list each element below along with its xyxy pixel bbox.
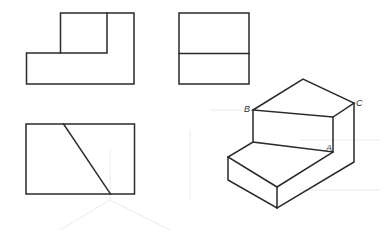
label-b: B xyxy=(244,104,250,114)
background-ghost-lines xyxy=(60,110,380,230)
label-c: C xyxy=(356,98,363,108)
front-view xyxy=(27,13,135,84)
side-view xyxy=(179,13,249,84)
isometric-view xyxy=(228,79,354,208)
top-view xyxy=(26,124,135,194)
label-a: A xyxy=(325,143,332,153)
drawing-canvas: B C A xyxy=(0,0,391,245)
